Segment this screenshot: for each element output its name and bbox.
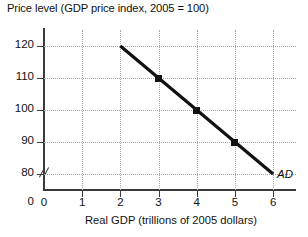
plot-area xyxy=(44,30,296,190)
x-axis-caption: Real GDP (trillions of 2005 dollars) xyxy=(0,214,308,226)
y-tick-label: 120 xyxy=(4,38,34,50)
y-tick xyxy=(37,78,44,79)
y-tick xyxy=(37,46,44,47)
x-tick-label: 4 xyxy=(187,196,207,208)
data-point-marker xyxy=(193,107,200,114)
y-tick xyxy=(37,110,44,111)
x-tick-label: 2 xyxy=(110,196,130,208)
y-tick-label: 90 xyxy=(4,134,34,146)
x-tick-label: 6 xyxy=(263,196,283,208)
x-tick-label: 3 xyxy=(149,196,169,208)
y-axis-zero-label: 0 xyxy=(4,195,34,207)
x-tick-label: 0 xyxy=(34,196,54,208)
ad-curve xyxy=(44,30,296,190)
y-tick-label: 100 xyxy=(4,102,34,114)
y-tick-label: 80 xyxy=(4,166,34,178)
data-point-marker xyxy=(231,139,238,146)
data-point-marker xyxy=(155,75,162,82)
y-tick-label: 110 xyxy=(4,70,34,82)
y-tick xyxy=(37,142,44,143)
x-tick-label: 1 xyxy=(72,196,92,208)
chart-title: Price level (GDP price index, 2005 = 100… xyxy=(7,2,209,14)
aggregate-demand-chart: Price level (GDP price index, 2005 = 100… xyxy=(0,0,308,237)
x-tick-label: 5 xyxy=(225,196,245,208)
series-label-ad: AD xyxy=(277,168,293,180)
y-tick xyxy=(37,174,44,175)
